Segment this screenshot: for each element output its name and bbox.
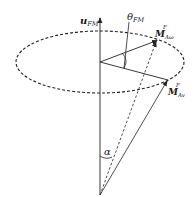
apex-vector-to-m-a-v [100,81,167,195]
vector-m-a-v [100,62,168,80]
label-theta-fm: θFM [127,11,145,24]
vector-diagram: uFM θFM MAω F MAv F α [0,0,195,197]
label-u-fm: uFM [80,15,99,28]
label-alpha: α [104,146,111,157]
vector-m-a-omega [100,41,157,63]
label-m-a-v-sup: F [175,82,180,88]
theta-pointer-line [124,22,129,68]
label-m-a-v: MAv [167,87,186,98]
dashed-line-apex-to-omega [100,42,156,195]
label-m-a-omega: MAω [154,29,174,40]
label-m-a-omega-sup: F [162,24,167,30]
